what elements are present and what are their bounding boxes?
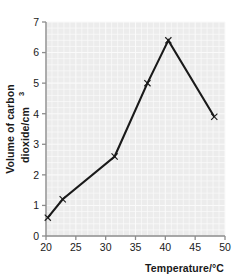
x-axis-tick-labels: 20253035404550 xyxy=(40,241,231,253)
y-axis-title-superscript: 3 xyxy=(17,92,26,96)
y-axis-title-line-1: Volume of carbon xyxy=(4,84,16,174)
y-axis-tick-labels: 01234567 xyxy=(33,16,39,242)
x-axis-title: Temperature/°C xyxy=(145,262,224,274)
x-tick-label: 35 xyxy=(130,241,142,253)
x-tick-label: 50 xyxy=(219,241,231,253)
y-tick-label: 6 xyxy=(33,46,39,58)
y-tick-label: 2 xyxy=(33,169,39,181)
line-chart: 01234567 20253035404550 Temperature/°C V… xyxy=(0,0,234,280)
y-axis-title-line-2: dioxide/cm xyxy=(19,107,31,163)
y-tick-label: 1 xyxy=(33,199,39,211)
y-axis-title-line-2-group: dioxide/cm 3 xyxy=(17,92,31,163)
y-tick-label: 5 xyxy=(33,77,39,89)
y-tick-label: 3 xyxy=(33,138,39,150)
x-tick-label: 20 xyxy=(40,241,52,253)
y-tick-label: 0 xyxy=(33,230,39,242)
y-tick-label: 7 xyxy=(33,16,39,28)
x-tick-label: 45 xyxy=(189,241,201,253)
x-tick-label: 30 xyxy=(100,241,112,253)
x-tick-label: 40 xyxy=(159,241,171,253)
x-tick-label: 25 xyxy=(70,241,82,253)
chart-figure: 01234567 20253035404550 Temperature/°C V… xyxy=(0,0,234,280)
y-tick-label: 4 xyxy=(33,108,39,120)
